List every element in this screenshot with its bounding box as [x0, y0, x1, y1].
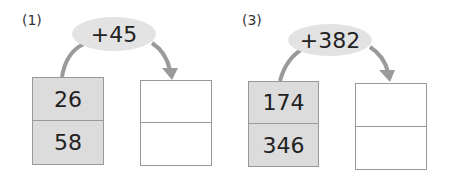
problem-3: (3) +382 174 346 [224, 0, 448, 181]
input-value: 58 [33, 121, 103, 164]
answer-field[interactable] [356, 84, 426, 127]
answer-box[interactable] [140, 80, 212, 166]
problem-label: (3) [242, 12, 262, 28]
answer-field[interactable] [141, 123, 211, 165]
answer-field[interactable] [141, 81, 211, 123]
input-box: 26 58 [32, 77, 104, 165]
input-value: 26 [33, 78, 103, 121]
input-box: 174 346 [248, 81, 319, 167]
answer-box[interactable] [355, 83, 427, 170]
answer-field[interactable] [356, 127, 426, 170]
problem-label: (1) [22, 12, 42, 28]
problem-1: (1) +45 26 58 [0, 0, 224, 181]
input-value: 174 [249, 82, 318, 124]
input-value: 346 [249, 124, 318, 166]
operation-bubble: +45 [72, 17, 156, 51]
operation-bubble: +382 [288, 24, 372, 56]
